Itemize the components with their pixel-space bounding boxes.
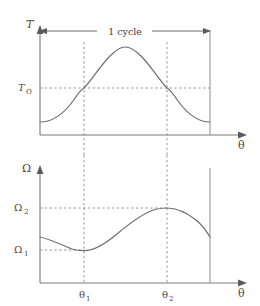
- t-x-axis: [40, 132, 247, 139]
- omega-curve: [40, 208, 210, 251]
- t-y-axis-label: T: [26, 18, 35, 31]
- t-x-axis-label: θ: [238, 139, 245, 152]
- omega-x-axis: [40, 280, 247, 287]
- temperature-panel: 1 cycle T T O θ: [18, 18, 247, 155]
- svg-text:θ: θ: [162, 289, 168, 300]
- svg-text:O: O: [26, 88, 32, 96]
- omega-tick-label-omega2: Ω 2: [14, 202, 28, 216]
- figure-container: 1 cycle T T O θ: [0, 0, 260, 306]
- svg-text:1: 1: [86, 295, 90, 303]
- svg-text:θ: θ: [79, 289, 85, 300]
- svg-text:2: 2: [169, 295, 173, 303]
- svg-text:1: 1: [24, 250, 28, 258]
- svg-text:Ω: Ω: [14, 202, 22, 213]
- omega-y-axis-label: Ω: [22, 162, 31, 175]
- omega-panel: Ω Ω 2 Ω 1 θ 1 θ 2 θ: [14, 155, 247, 303]
- omega-y-axis: [37, 165, 44, 283]
- omega-tick-label-theta1: θ 1: [79, 289, 90, 303]
- svg-text:2: 2: [24, 208, 28, 216]
- temperature-curve: [40, 47, 210, 122]
- svg-text:Ω: Ω: [14, 244, 22, 255]
- svg-text:T: T: [18, 82, 26, 93]
- t-y-axis: [37, 25, 44, 135]
- omega-tick-label-omega1: Ω 1: [14, 244, 28, 258]
- figure-svg: 1 cycle T T O θ: [0, 0, 260, 306]
- omega-x-axis-label: θ: [238, 287, 245, 300]
- t-tick-label-T0: T O: [18, 82, 32, 96]
- omega-tick-label-theta2: θ 2: [162, 289, 173, 303]
- cycle-span-label: 1 cycle: [108, 26, 142, 37]
